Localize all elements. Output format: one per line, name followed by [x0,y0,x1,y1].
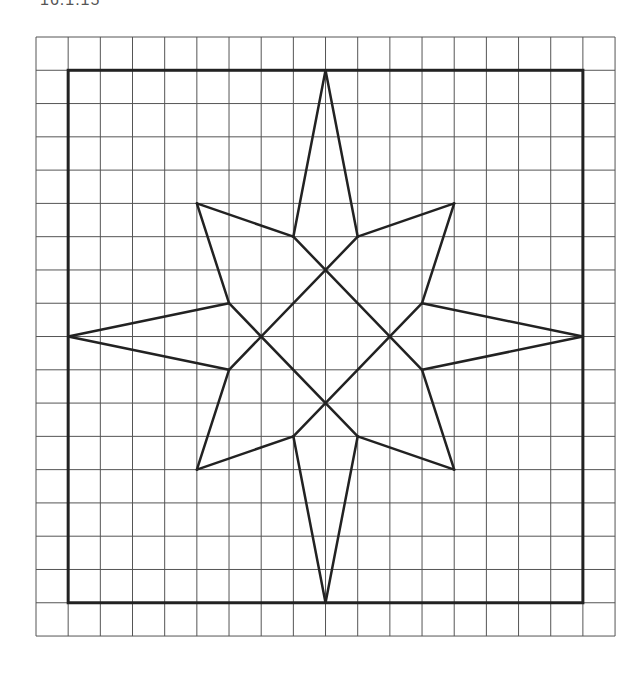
star-edge [358,203,455,236]
star-edge [326,70,358,236]
grid-lines [36,37,615,636]
star-edge [358,436,455,469]
star-edge [197,203,294,236]
star-edge [197,370,229,470]
star-edge [422,203,454,303]
star-edge [68,337,229,370]
star-grid-diagram [0,0,639,683]
star-edge [197,203,229,303]
star-edge [68,303,229,336]
star-edge [293,70,325,236]
star-edge [422,303,583,336]
star-edge [422,370,454,470]
star-edge [422,337,583,370]
star-edge [293,436,325,602]
star-edge [326,436,358,602]
star-edge [197,436,294,469]
